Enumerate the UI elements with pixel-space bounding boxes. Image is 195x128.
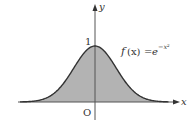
function-label: f (x) = e −x²: [120, 43, 170, 58]
y-axis-label: y: [98, 1, 105, 12]
x-axis-arrow-icon: [173, 100, 180, 105]
y-axis-arrow-icon: [93, 4, 98, 11]
function-exponent: −x²: [158, 43, 170, 51]
gaussian-chart: y x 1 O f (x) = e −x²: [0, 0, 195, 128]
function-f: f: [120, 45, 127, 58]
origin-label: O: [83, 107, 91, 118]
function-arg: (x): [127, 46, 141, 57]
y-tick-1: 1: [85, 36, 91, 47]
x-axis-label: x: [181, 96, 187, 107]
